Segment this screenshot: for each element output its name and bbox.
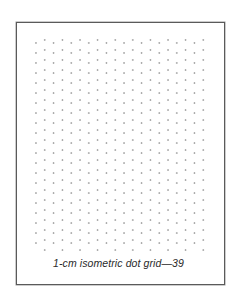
- grid-dot: [80, 159, 81, 161]
- grid-dot: [133, 199, 134, 201]
- grid-dot: [115, 99, 116, 101]
- grid-dot: [106, 242, 107, 244]
- grid-dot: [62, 139, 63, 141]
- grid-dot: [53, 142, 54, 144]
- grid-dot: [133, 209, 134, 211]
- grid-dot: [53, 92, 54, 94]
- grid-dot: [97, 219, 98, 221]
- grid-dot: [62, 59, 63, 61]
- grid-dot: [177, 72, 178, 74]
- grid-dot: [53, 172, 54, 174]
- grid-dot: [115, 239, 116, 241]
- grid-dot: [53, 212, 54, 214]
- grid-dot: [159, 172, 160, 174]
- grid-dot: [194, 132, 195, 134]
- grid-dot: [150, 119, 151, 121]
- grid-dot: [44, 49, 45, 51]
- grid-dot: [115, 199, 116, 201]
- grid-dot: [185, 139, 186, 141]
- grid-dot: [150, 189, 151, 191]
- grid-dot: [89, 72, 90, 74]
- grid-dot: [185, 199, 186, 201]
- grid-dot: [71, 102, 72, 104]
- grid-dot: [71, 192, 72, 194]
- grid-dot: [194, 72, 195, 74]
- grid-dot: [150, 49, 151, 51]
- grid-dot: [36, 182, 37, 184]
- grid-dot: [133, 59, 134, 61]
- grid-dot: [141, 122, 142, 124]
- grid-dot: [203, 219, 204, 221]
- grid-dot: [194, 52, 195, 54]
- grid-dot: [185, 99, 186, 101]
- grid-dot: [80, 49, 81, 51]
- grid-dot: [62, 239, 63, 241]
- grid-dot: [80, 179, 81, 181]
- grid-dot: [177, 192, 178, 194]
- grid-dot: [62, 79, 63, 81]
- grid-dot: [71, 212, 72, 214]
- grid-dot: [115, 209, 116, 211]
- grid-dot: [115, 109, 116, 111]
- grid-dot: [177, 152, 178, 154]
- grid-dot: [71, 142, 72, 144]
- grid-dot: [44, 109, 45, 111]
- grid-dot: [115, 249, 116, 251]
- grid-dot: [97, 239, 98, 241]
- grid-dot: [203, 129, 204, 131]
- grid-dot: [124, 182, 125, 184]
- grid-dot: [106, 72, 107, 74]
- grid-dot: [141, 112, 142, 114]
- grid-dot: [203, 109, 204, 111]
- grid-dot: [203, 169, 204, 171]
- grid-dot: [168, 219, 169, 221]
- grid-dot: [36, 92, 37, 94]
- grid-dot: [177, 42, 178, 44]
- grid-dot: [168, 39, 169, 41]
- grid-dot: [133, 179, 134, 181]
- grid-dot: [168, 129, 169, 131]
- grid-caption: 1-cm isometric dot grid—39: [0, 257, 237, 269]
- grid-dot: [44, 129, 45, 131]
- grid-dot: [53, 192, 54, 194]
- grid-dot: [53, 112, 54, 114]
- grid-dot: [71, 172, 72, 174]
- grid-dot: [141, 172, 142, 174]
- grid-dot: [115, 119, 116, 121]
- grid-dot: [185, 239, 186, 241]
- grid-dot: [203, 199, 204, 201]
- grid-dot: [141, 82, 142, 84]
- grid-dot: [177, 112, 178, 114]
- grid-dot: [168, 109, 169, 111]
- grid-dot: [124, 62, 125, 64]
- grid-dot: [97, 149, 98, 151]
- grid-dots: [35, 39, 204, 251]
- grid-dot: [80, 189, 81, 191]
- grid-dot: [185, 229, 186, 231]
- grid-dot: [36, 122, 37, 124]
- grid-dot: [53, 152, 54, 154]
- grid-dot: [62, 199, 63, 201]
- grid-dot: [141, 52, 142, 54]
- grid-dot: [185, 209, 186, 211]
- grid-dot: [159, 192, 160, 194]
- grid-dot: [71, 112, 72, 114]
- grid-dot: [185, 159, 186, 161]
- grid-dot: [53, 52, 54, 54]
- grid-dot: [133, 99, 134, 101]
- grid-dot: [185, 119, 186, 121]
- grid-dot: [124, 132, 125, 134]
- grid-dot: [168, 49, 169, 51]
- grid-dot: [62, 89, 63, 91]
- grid-dot: [80, 199, 81, 201]
- grid-dot: [141, 202, 142, 204]
- grid-dot: [177, 52, 178, 54]
- grid-dot: [168, 239, 169, 241]
- grid-dot: [97, 189, 98, 191]
- grid-dot: [141, 232, 142, 234]
- grid-dot: [150, 229, 151, 231]
- grid-dot: [62, 39, 63, 41]
- grid-dot: [80, 99, 81, 101]
- grid-dot: [115, 189, 116, 191]
- grid-dot: [194, 162, 195, 164]
